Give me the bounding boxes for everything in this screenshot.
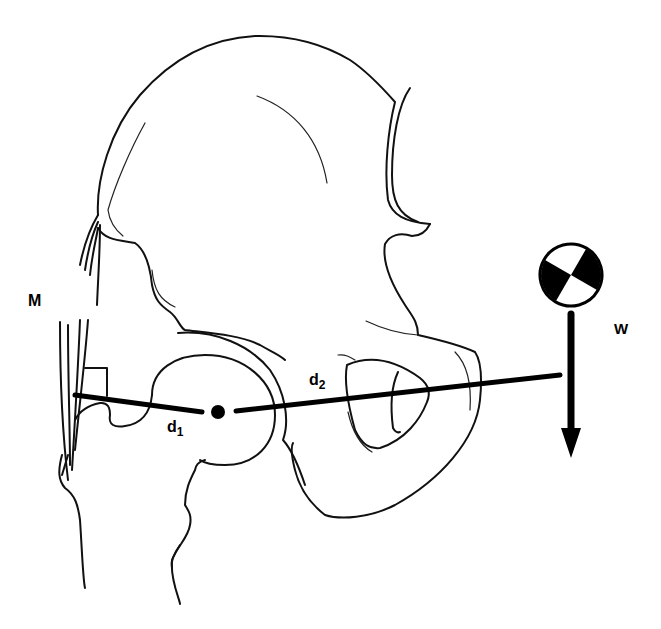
ilium-lateral-edge (98, 228, 285, 360)
ilium-lateral-inner (152, 270, 175, 307)
abductor-muscle-lines (60, 215, 100, 480)
d1-label-base: d (167, 418, 177, 435)
femur-lateral-shaft (59, 455, 85, 588)
lesser-trochanter (172, 545, 180, 568)
iliac-inner-edge (392, 88, 418, 222)
d2-label-base: d (309, 371, 319, 388)
muscle-force-label: M (28, 292, 41, 310)
hip-lever-diagram (0, 0, 661, 629)
iliac-wing-outline (98, 36, 430, 224)
ischium-inner-line (455, 352, 470, 410)
d1-label-subscript: 1 (177, 425, 184, 439)
weight-arrow-head-icon (561, 428, 581, 458)
obturator-foramen (346, 360, 429, 448)
right-angle-marker (85, 368, 107, 396)
pubic-line (366, 321, 418, 335)
d2-label: d2 (309, 371, 325, 392)
obturator-outer-thin (338, 355, 372, 452)
center-of-mass-icon (529, 233, 614, 318)
femur-medial-shaft (172, 460, 205, 604)
weight-force-label: W (614, 320, 628, 337)
lever-arm-d2 (236, 375, 560, 411)
obturator-inner-line (392, 372, 400, 432)
fulcrum-dot (211, 405, 225, 419)
d1-label: d1 (167, 418, 183, 439)
iliac-fossa-line (257, 96, 327, 183)
d2-label-subscript: 2 (319, 378, 326, 392)
